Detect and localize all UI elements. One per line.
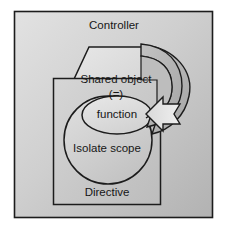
shared-object-label: Shared object (81, 73, 153, 85)
controller-label: Controller (89, 19, 139, 31)
shared-object-sublabel: (=) (109, 88, 124, 100)
architecture-diagram: Controller Shared object (=) function Is… (0, 0, 226, 231)
diagram-root: Controller Shared object (=) function Is… (0, 0, 226, 231)
directive-label: Directive (85, 186, 130, 198)
function-label: function (97, 108, 137, 120)
isolate-scope-label: Isolate scope (73, 142, 141, 154)
